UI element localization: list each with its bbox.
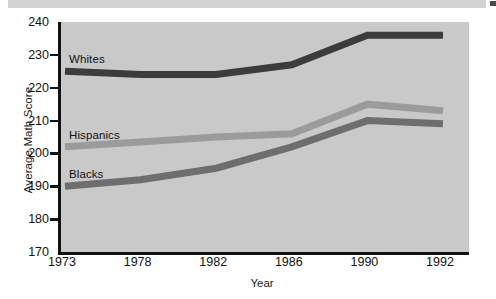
chart-figure: Average Math Score Year 1701801902002102…	[0, 0, 496, 299]
series-line-hispanics	[65, 104, 443, 147]
series-line-whites	[65, 35, 443, 74]
series-lines	[61, 22, 469, 252]
x-tick-label: 1978	[108, 255, 168, 269]
series-line-blacks	[65, 121, 443, 187]
series-label-hispanics: Hispanics	[69, 129, 120, 141]
x-tick-label: 1973	[32, 255, 92, 269]
x-tick-label: 1992	[410, 255, 470, 269]
x-tick-label: 1986	[259, 255, 319, 269]
series-label-whites: Whites	[69, 53, 105, 65]
series-label-blacks: Blacks	[69, 168, 103, 180]
x-tick-label: 1990	[334, 255, 394, 269]
x-tick-label: 1982	[183, 255, 243, 269]
plot-area: WhitesHispanicsBlacks	[58, 22, 469, 255]
